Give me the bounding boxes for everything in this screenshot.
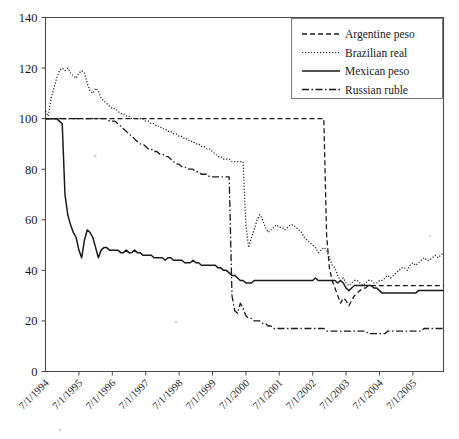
y-tick-label: 120 <box>19 62 38 76</box>
y-tick-label: 40 <box>25 264 38 278</box>
x-tick-label: 7/1/2003 <box>317 377 351 411</box>
x-tick-label: 7/1/1996 <box>84 377 118 411</box>
y-tick-label: 100 <box>19 112 38 126</box>
x-tick-label: 7/1/1995 <box>50 377 84 411</box>
x-tick-label: 7/1/1997 <box>117 377 151 411</box>
chart-legend: Argentine pesoBrazilian realMexican peso… <box>292 19 443 99</box>
x-tick-label: 7/1/2005 <box>384 377 418 411</box>
y-tick-label: 20 <box>25 314 38 328</box>
series-line-argentine-peso <box>46 119 444 306</box>
y-tick-label: 0 <box>31 365 37 379</box>
x-tick-label: 7/1/2004 <box>351 377 386 412</box>
x-tick-label: 7/1/2001 <box>251 377 285 411</box>
x-tick-label: 7/1/1998 <box>150 377 184 411</box>
series-line-brazilian-real <box>46 68 444 285</box>
legend-label-argentine-peso: Argentine peso <box>345 28 415 41</box>
data-series-group <box>46 68 444 334</box>
x-tick-label: 7/1/1999 <box>184 377 218 411</box>
chart-canvas: 020406080100120140 7/1/19947/1/19957/1/1… <box>0 0 459 439</box>
x-tick-label: 7/1/2000 <box>217 377 251 411</box>
legend-label-brazilian-real: Brazilian real <box>345 47 407 59</box>
series-line-russian-ruble <box>46 119 444 334</box>
y-tick-label: 60 <box>25 213 38 227</box>
y-tick-label: 140 <box>19 11 38 25</box>
currency-index-figure: 020406080100120140 7/1/19947/1/19957/1/1… <box>0 0 459 439</box>
legend-label-mexican-peso: Mexican peso <box>345 65 409 78</box>
series-line-mexican-peso <box>46 119 444 293</box>
y-tick-label: 80 <box>25 163 38 177</box>
x-axis: 7/1/19947/1/19957/1/19967/1/19977/1/1998… <box>17 372 419 412</box>
legend-label-russian-ruble: Russian ruble <box>345 84 408 96</box>
x-tick-label: 7/1/2002 <box>284 377 318 411</box>
y-axis: 020406080100120140 <box>19 11 46 379</box>
x-tick-label: 7/1/1994 <box>17 377 52 412</box>
